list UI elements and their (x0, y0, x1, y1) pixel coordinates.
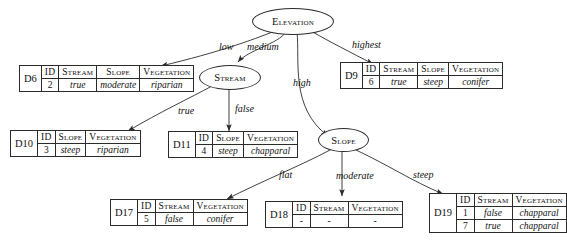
table-d18-cell-id: - (293, 215, 310, 228)
table-d9-cell-id: 6 (362, 76, 379, 89)
table-d19-col-id: ID (457, 194, 474, 207)
table-d6-col-stream: Stream (59, 66, 97, 79)
table-d18: D18 ID Stream Vegetation - - - (265, 201, 403, 228)
table-d11-cell-vegetation: chapparal (243, 145, 297, 158)
table-d6-col-slope: Slope (97, 66, 140, 79)
table-row: D19 ID Stream Vegetation (430, 194, 567, 207)
edge-label-low: low (219, 41, 233, 52)
table-d11-col-vegetation: Vegetation (243, 132, 297, 145)
edge-label-steep: steep (413, 169, 434, 180)
node-slope[interactable]: Slope (318, 128, 369, 152)
node-slope-label: Slope (331, 135, 355, 146)
table-d6-col-vegetation: Vegetation (140, 66, 194, 79)
table-d17-cell-vegetation: conifer (193, 213, 247, 226)
edge-stream-d10 (128, 86, 212, 131)
table-d11: D11 ID Slope Vegetation 4 steep chappara… (168, 131, 298, 158)
table-d9-col-vegetation: Vegetation (449, 63, 503, 76)
table-d11-cell-id: 4 (195, 145, 212, 158)
table-d19-r0-cell-stream: false (474, 207, 512, 220)
table-row: D18 ID Stream Vegetation (266, 202, 403, 215)
table-d6: D6 ID Stream Slope Vegetation 2 true mod… (19, 65, 194, 92)
table-row: 6 true steep conifer (341, 76, 503, 89)
table-d10-name: D10 (11, 131, 38, 157)
table-d19-r0-cell-vegetation: chapparal (512, 207, 566, 220)
table-d6-col-id: ID (41, 66, 58, 79)
node-stream[interactable]: Stream (199, 65, 261, 90)
table-d9-cell-stream: true (380, 76, 418, 89)
table-d9-cell-slope: steep (418, 76, 449, 89)
table-d17-cell-stream: false (155, 213, 193, 226)
table-d11-col-id: ID (195, 132, 212, 145)
table-row: D6 ID Stream Slope Vegetation (20, 66, 194, 79)
table-d18-cell-vegetation: - (348, 215, 402, 228)
table-d17-col-stream: Stream (155, 200, 193, 213)
table-d19: D19 ID Stream Vegetation 1 false chappar… (429, 193, 567, 233)
table-d19-name: D19 (430, 194, 457, 233)
table-d11-cell-slope: steep (213, 145, 244, 158)
table-row: D17 ID Stream Vegetation (111, 200, 248, 213)
table-d18-cell-stream: - (310, 215, 348, 228)
node-stream-label: Stream (214, 72, 246, 83)
table-d11-name: D11 (169, 132, 196, 158)
table-row: D10 ID Slope Vegetation (11, 131, 141, 144)
table-d17-col-vegetation: Vegetation (193, 200, 247, 213)
edge-label-true: true (178, 105, 194, 116)
table-d18-col-id: ID (293, 202, 310, 215)
table-d19-r1-cell-vegetation: chapparal (512, 220, 566, 233)
table-row: 2 true moderate riparian (20, 79, 194, 92)
table-row: D11 ID Slope Vegetation (169, 132, 298, 145)
table-row: D9 ID Stream Slope Vegetation (341, 63, 503, 76)
edge-label-flat: flat (279, 169, 292, 180)
table-d10-col-slope: Slope (55, 131, 86, 144)
table-d9-name: D9 (341, 63, 363, 89)
table-d10-col-vegetation: Vegetation (86, 131, 140, 144)
table-d10-cell-slope: steep (55, 144, 86, 157)
table-d19-r0-cell-id: 1 (457, 207, 474, 220)
table-d9-col-id: ID (362, 63, 379, 76)
table-d10-cell-id: 3 (38, 144, 55, 157)
table-d6-cell-slope: moderate (97, 79, 140, 92)
table-d17-name: D17 (111, 200, 138, 226)
table-d18-col-vegetation: Vegetation (348, 202, 402, 215)
table-d19-r1-cell-stream: true (474, 220, 512, 233)
table-d10: D10 ID Slope Vegetation 3 steep riparian (10, 130, 141, 157)
table-d18-name: D18 (266, 202, 293, 228)
node-elevation[interactable]: Elevation (252, 8, 334, 35)
table-d9-col-stream: Stream (380, 63, 418, 76)
table-d6-name: D6 (20, 66, 42, 92)
table-d18-col-stream: Stream (310, 202, 348, 215)
table-d6-cell-id: 2 (41, 79, 58, 92)
edge-label-moderate: moderate (336, 170, 374, 181)
table-d11-col-slope: Slope (213, 132, 244, 145)
table-d6-cell-vegetation: riparian (140, 79, 194, 92)
edge-label-medium: medium (247, 41, 279, 52)
table-d6-cell-stream: true (59, 79, 97, 92)
table-d9: D9 ID Stream Slope Vegetation 6 true ste… (340, 62, 503, 89)
table-d17-col-id: ID (138, 200, 155, 213)
edge-label-highest: highest (352, 39, 381, 50)
table-d10-cell-vegetation: riparian (86, 144, 140, 157)
table-d19-col-stream: Stream (474, 194, 512, 207)
node-elevation-label: Elevation (272, 16, 314, 27)
table-d17-cell-id: 5 (138, 213, 155, 226)
table-d19-r1-cell-id: 7 (457, 220, 474, 233)
edge-label-false: false (235, 103, 254, 114)
table-d9-col-slope: Slope (418, 63, 449, 76)
table-d9-cell-vegetation: conifer (449, 76, 503, 89)
edge-label-high: high (293, 77, 311, 88)
table-d19-col-vegetation: Vegetation (512, 194, 566, 207)
table-d10-col-id: ID (38, 131, 55, 144)
table-d17: D17 ID Stream Vegetation 5 false conifer (110, 199, 248, 226)
